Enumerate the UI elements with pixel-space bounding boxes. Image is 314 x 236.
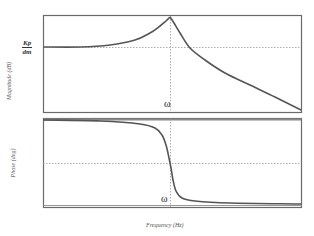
omega-label-bottom: ω	[161, 193, 168, 204]
magnitude-axis-label: Magnitude (dB)	[6, 62, 12, 100]
kp-numerator: Kp	[22, 39, 32, 48]
phase-axis-label: Phase (deg)	[10, 149, 16, 178]
magnitude-curve	[43, 17, 301, 110]
phase-curve	[43, 120, 301, 204]
bode-plot	[0, 0, 314, 236]
magnitude-frame	[44, 16, 302, 113]
kp-denominator: dm	[23, 48, 32, 56]
frequency-axis-label: Frequency (Hz)	[146, 222, 184, 228]
omega-label-top: ω	[164, 98, 171, 109]
kp-dm-label: Kp dm	[22, 39, 32, 56]
phase-frame	[44, 119, 302, 208]
